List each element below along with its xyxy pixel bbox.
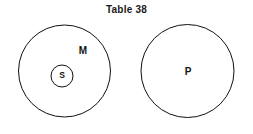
set-label-m: M — [74, 45, 92, 56]
euler-diagram-figure: Table 38 M S P — [0, 0, 253, 134]
set-label-s: S — [53, 70, 71, 80]
set-label-p: P — [179, 66, 197, 77]
euler-diagram-canvas — [0, 0, 253, 134]
